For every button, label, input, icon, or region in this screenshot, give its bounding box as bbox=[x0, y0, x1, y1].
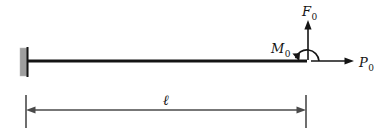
length-label: ℓ bbox=[163, 92, 169, 108]
moment-label: M0 bbox=[270, 41, 291, 59]
vertical-force-label: F0 bbox=[301, 4, 318, 22]
vertical-force-arrow bbox=[304, 20, 311, 60]
moment-subscript: 0 bbox=[285, 49, 291, 59]
axial-force-label: P0 bbox=[358, 55, 374, 73]
axial-force-arrow bbox=[311, 57, 354, 64]
diagram-canvas: F0 M0 P0 ℓ bbox=[0, 0, 384, 136]
free-body-diagram: F0 M0 P0 ℓ bbox=[0, 0, 384, 136]
axial-force-subscript: 0 bbox=[368, 63, 374, 73]
beam bbox=[27, 60, 307, 63]
vertical-force-subscript: 0 bbox=[312, 12, 318, 22]
